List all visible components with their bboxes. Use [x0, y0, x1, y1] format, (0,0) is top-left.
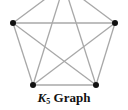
graph-caption: K5 Graph [0, 90, 128, 106]
edge [33, 0, 64, 85]
edge [33, 23, 115, 85]
vertex-bottom-right [93, 82, 99, 88]
edge [96, 23, 115, 85]
vertex-right [112, 20, 118, 26]
edge [13, 23, 96, 85]
caption-symbol: K [38, 90, 47, 105]
graph-vertices [10, 20, 118, 88]
edge [64, 0, 115, 23]
graph-edges [13, 0, 115, 85]
vertex-left [10, 20, 16, 26]
edge [13, 23, 33, 85]
caption-subscript: 5 [46, 97, 50, 106]
vertex-bottom-left [30, 82, 36, 88]
caption-text: Graph [54, 90, 91, 105]
